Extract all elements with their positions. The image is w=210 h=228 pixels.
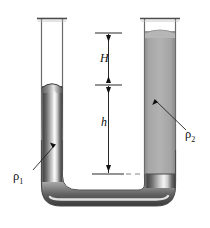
fluid-rho1-inner-edge [63,140,145,190]
rho1-subscript: 1 [19,177,23,186]
dimension-h-arrow-top [106,87,111,94]
label-density-rho2: ρ2 [185,128,195,144]
dimension-h-arrow-bottom [106,165,111,172]
dimension-H-arrow-top [106,35,111,42]
fluid-rho2 [145,30,176,174]
dimension-H-arrow-bottom [106,76,111,83]
fluid-rho1-left-column [42,86,63,182]
label-height-h: h [101,116,107,128]
rho2-subscript: 2 [191,135,195,144]
fluid-rho1-right-column [145,174,176,188]
label-height-H: H [100,52,109,64]
u-tube-manometer-figure [0,0,210,228]
label-density-rho1: ρ1 [13,170,23,186]
fluid-rho1-meniscus [42,84,63,93]
fluid-rho2-body [145,31,175,174]
